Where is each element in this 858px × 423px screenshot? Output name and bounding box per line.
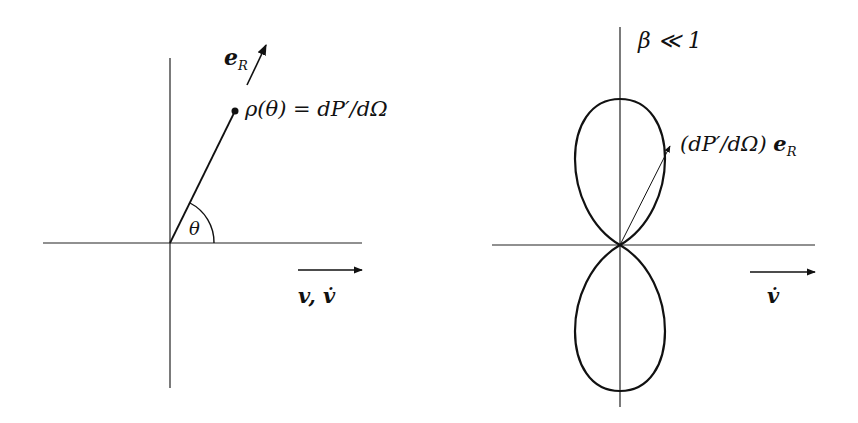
figure-canvas: [0, 0, 858, 423]
theta-label: θ: [189, 218, 200, 239]
power-vector-label: (dP′/dΩ) eR: [680, 131, 797, 159]
radius-line: [170, 111, 235, 243]
e-r-label: eR: [224, 44, 248, 73]
e-r-arrow: [247, 45, 266, 85]
power-vector-arrow: [620, 146, 670, 245]
velocity-label: v, v̇: [298, 283, 335, 308]
rho-label: ρ(θ) = dP′/dΩ: [245, 97, 388, 121]
rho-point: [232, 108, 239, 115]
beta-label: β ≪ 1: [638, 28, 702, 53]
right-diagram: [492, 27, 815, 407]
acceleration-label: v̇: [767, 283, 779, 308]
